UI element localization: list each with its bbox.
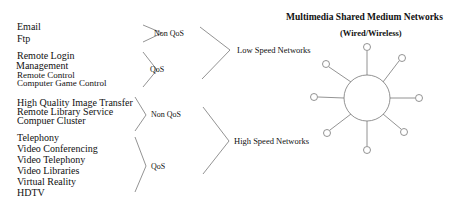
app-label: Virtual Reality <box>17 177 76 187</box>
qos-label: Non QoS <box>151 111 181 119</box>
diagram-subtitle: (Wired/Wireless) <box>340 29 402 38</box>
network-label-high: High Speed Networks <box>234 137 309 146</box>
app-label: Email <box>17 22 41 32</box>
app-label: Telephony <box>17 133 59 143</box>
app-label: Video Libraries <box>17 166 79 176</box>
brace-low-speed <box>200 27 230 79</box>
brace-high-speed <box>203 107 229 174</box>
app-label: HDTV <box>17 188 45 198</box>
qos-label: Non QoS <box>154 30 184 38</box>
qos-label: QoS <box>151 163 165 171</box>
app-label: Compuer Cluster <box>17 116 86 126</box>
app-label: Computer Game Control <box>17 79 107 88</box>
brace-telephony <box>135 137 146 192</box>
brace-hq-image <box>135 97 146 131</box>
network-label-low: Low Speed Networks <box>237 46 311 55</box>
app-label: Video Telephony <box>17 155 85 165</box>
app-label: Ftp <box>17 34 30 44</box>
diagram-title: Multimedia Shared Medium Networks <box>286 13 443 23</box>
app-label: Video Conferencing <box>17 144 98 154</box>
qos-label: QoS <box>150 66 164 74</box>
